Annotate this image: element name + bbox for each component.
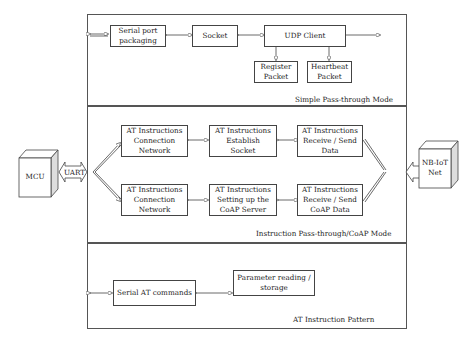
box-heartbeat-packet: Heartbeat Packet (307, 61, 352, 83)
mcu-label: MCU (19, 172, 51, 182)
box-at-receive-send-coap: AT Instructions Receive / Send CoAP Data (297, 184, 363, 216)
box-at-establish-socket: AT Instructions Establish Socket (209, 125, 277, 157)
box-at-coap-server: AT Instructions Setting up the CoAP Serv… (209, 184, 277, 216)
box-serial-port-packaging: Serial port packaging (110, 25, 166, 47)
mode-label-at-instruction: AT Instruction Pattern (293, 315, 374, 324)
box-socket: Socket (192, 25, 238, 47)
box-at-connection-network-2: AT Instructions Connection Network (121, 184, 188, 216)
box-udp-client: UDP Client (264, 25, 346, 47)
box-parameter-reading-storage: Parameter reading / storage (233, 270, 315, 296)
nbiot-label: NB-IoT Net (419, 158, 451, 178)
mode-label-simple-passthrough: Simple Pass-through Mode (295, 95, 393, 104)
mode-label-instruction-coap: Instruction Pass-through/CoAP Mode (256, 229, 391, 238)
box-serial-at-commands: Serial AT commands (113, 280, 196, 306)
uart-label: UART (64, 168, 85, 177)
box-register-packet: Register Packet (254, 61, 298, 83)
box-at-receive-send-data: AT Instructions Receive / Send Data (297, 125, 363, 157)
box-at-connection-network-1: AT Instructions Connection Network (121, 125, 188, 157)
